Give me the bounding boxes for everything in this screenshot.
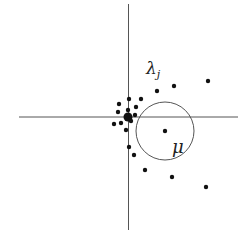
eigenvalue-point <box>124 128 128 132</box>
eigenvalue-point <box>134 105 138 109</box>
lambda-subscript: j <box>157 68 160 81</box>
eigenvalue-point <box>155 89 159 93</box>
eigenvalue-point <box>116 110 120 114</box>
eigenvalue-point <box>204 185 208 189</box>
origin-cluster-point <box>124 113 133 122</box>
eigenvalue-point <box>206 79 210 83</box>
eigenvalue-point <box>170 175 174 179</box>
lambda-j-label: λj <box>146 58 160 81</box>
eigenvalue-point <box>133 113 137 117</box>
eigenvalue-point <box>126 108 130 112</box>
eigenvalue-point <box>127 97 131 101</box>
eigenvalue-point <box>172 84 176 88</box>
eigenvalue-point <box>112 122 116 126</box>
lambda-symbol: λ <box>146 58 157 78</box>
eigenvalue-point <box>127 145 131 149</box>
eigenvalue-point <box>132 153 136 157</box>
eigenvalue-point <box>119 121 123 125</box>
mu-label: μ <box>172 136 184 157</box>
eigenvalue-point <box>143 168 147 172</box>
eigenvalue-point <box>163 129 167 133</box>
eigenvalue-diagram <box>0 0 251 233</box>
eigenvalue-point <box>139 97 143 101</box>
eigenvalue-point <box>117 102 121 106</box>
